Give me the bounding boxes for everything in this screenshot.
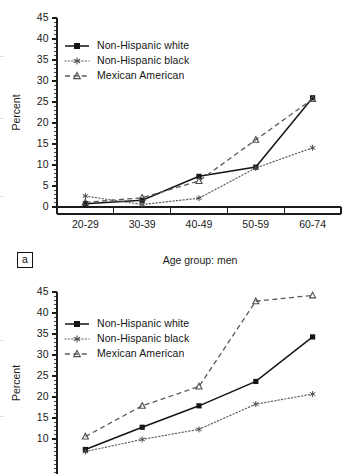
y-tick-label: 45: [37, 11, 49, 23]
y-tick-label: 30: [37, 74, 49, 86]
x-tick-label: 30-39: [129, 218, 156, 230]
chart-panel-b: 1015202530354045Percent: [0, 278, 347, 475]
data-point-marker: [310, 292, 316, 298]
legend-key-dashed-triangle-line: [64, 70, 90, 82]
legend-key-dashed-triangle-line: [64, 348, 90, 360]
legend-key-solid-square-line: [64, 318, 90, 330]
data-point-marker: [140, 425, 145, 430]
legend-item-non-hispanic-black: Non-Hispanic black: [64, 53, 189, 68]
legend-label-non-hispanic-black: Non-Hispanic black: [97, 331, 189, 346]
data-point-marker: [139, 403, 145, 409]
y-tick-label: 20: [37, 116, 49, 128]
data-point-marker: [310, 391, 315, 397]
y-axis-title: Percent: [10, 365, 22, 401]
x-tick-label: 50-59: [242, 218, 269, 230]
data-point-marker: [253, 379, 258, 384]
y-tick-label: 20: [37, 390, 49, 402]
series-line-mexican-american: [85, 99, 312, 202]
legend-label-mexican-american: Mexican American: [97, 68, 184, 83]
legend-item-mexican-american: Mexican American: [64, 68, 189, 83]
x-tick-label: 20-29: [72, 218, 99, 230]
y-tick-label: 40: [37, 306, 49, 318]
legend-item-non-hispanic-white: Non-Hispanic white: [64, 316, 189, 331]
y-tick-label: 25: [37, 95, 49, 107]
series-line-non-hispanic-white: [85, 98, 312, 204]
chart-b-canvas: 1015202530354045Percent: [0, 278, 347, 475]
legend-label-non-hispanic-black: Non-Hispanic black: [97, 53, 189, 68]
y-tick-label: 35: [37, 53, 49, 65]
legend-item-non-hispanic-black: Non-Hispanic black: [64, 331, 189, 346]
chart-a-legend: Non-Hispanic white Non-Hispanic black Me…: [64, 38, 189, 83]
data-point-marker: [310, 334, 315, 339]
panel-tag-a: a: [17, 252, 33, 268]
plot-area: [82, 95, 315, 207]
y-tick-label: 10: [37, 432, 49, 444]
series-line-non-hispanic-black: [85, 394, 312, 452]
x-tick-label: 40-49: [186, 218, 213, 230]
legend-label-non-hispanic-white: Non-Hispanic white: [97, 316, 189, 331]
y-axis-title: Percent: [10, 94, 22, 130]
data-point-marker: [196, 426, 201, 432]
legend-item-non-hispanic-white: Non-Hispanic white: [64, 38, 189, 53]
legend-label-mexican-american: Mexican American: [97, 346, 184, 361]
data-point-marker: [196, 403, 201, 408]
y-tick-label: 40: [37, 32, 49, 44]
y-tick-label: 5: [43, 179, 49, 191]
y-tick-label: 15: [37, 411, 49, 423]
y-tick-label: 45: [37, 285, 49, 297]
y-tick-label: 10: [37, 158, 49, 170]
y-tick-label: 15: [37, 137, 49, 149]
legend-key-dotted-star-line: [64, 333, 90, 345]
chart-b-legend: Non-Hispanic white Non-Hispanic black Me…: [64, 316, 189, 361]
y-tick-label: 0: [43, 200, 49, 212]
legend-item-mexican-american: Mexican American: [64, 346, 189, 361]
y-tick-label: 25: [37, 369, 49, 381]
figure-page: 051015202530354045Percent20-2930-3940-49…: [0, 0, 347, 475]
data-point-marker: [310, 145, 315, 151]
legend-key-dotted-star-line: [64, 55, 90, 67]
y-tick-label: 35: [37, 327, 49, 339]
legend-label-non-hispanic-white: Non-Hispanic white: [97, 38, 189, 53]
data-point-marker: [140, 436, 145, 442]
legend-key-solid-square-line: [64, 40, 90, 52]
chart-a-x-axis-title: Age group: men: [55, 254, 345, 266]
y-tick-label: 30: [37, 348, 49, 360]
x-tick-label: 60-74: [299, 218, 326, 230]
